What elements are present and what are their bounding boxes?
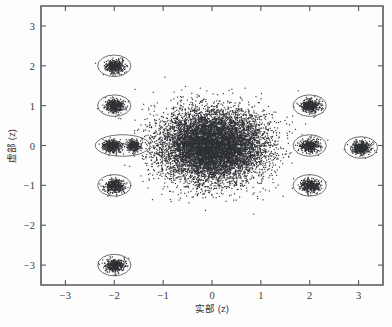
- data-point: [222, 120, 223, 121]
- data-point: [192, 140, 193, 141]
- data-point: [310, 137, 311, 138]
- data-point: [184, 122, 185, 123]
- data-point: [373, 142, 374, 143]
- data-point: [162, 153, 163, 154]
- data-point: [259, 148, 260, 149]
- data-point: [364, 138, 365, 139]
- data-point: [355, 154, 356, 155]
- data-point: [107, 272, 108, 273]
- data-point: [160, 129, 161, 130]
- data-point: [286, 123, 287, 124]
- data-point: [192, 188, 193, 189]
- data-point: [178, 137, 179, 138]
- data-point: [223, 154, 224, 155]
- data-point: [172, 160, 173, 161]
- data-point: [179, 179, 180, 180]
- y-tick-label: 2: [30, 61, 35, 72]
- data-point: [125, 106, 126, 107]
- data-point: [290, 152, 291, 153]
- data-point: [165, 124, 166, 125]
- data-point: [118, 68, 119, 69]
- data-point: [156, 141, 157, 142]
- data-point: [246, 159, 247, 160]
- data-point: [189, 108, 190, 109]
- data-point: [299, 145, 300, 146]
- data-point: [244, 163, 245, 164]
- data-point: [253, 158, 254, 159]
- data-point: [199, 151, 200, 152]
- data-point: [204, 144, 205, 145]
- data-point: [317, 109, 318, 110]
- data-point: [161, 155, 162, 156]
- data-point: [114, 143, 115, 144]
- data-point: [194, 169, 195, 170]
- data-point: [184, 149, 185, 150]
- data-point: [177, 142, 178, 143]
- data-point: [315, 105, 316, 106]
- data-point: [174, 165, 175, 166]
- data-point: [224, 130, 225, 131]
- data-point: [218, 152, 219, 153]
- data-point: [247, 170, 248, 171]
- data-point: [207, 176, 208, 177]
- data-point: [109, 189, 110, 190]
- data-point: [239, 153, 240, 154]
- data-point: [230, 142, 231, 143]
- data-point: [189, 172, 190, 173]
- data-point: [243, 155, 244, 156]
- data-point: [228, 152, 229, 153]
- data-point: [233, 150, 234, 151]
- data-point: [287, 135, 288, 136]
- data-point: [244, 158, 245, 159]
- data-point: [300, 183, 301, 184]
- data-point: [254, 142, 255, 143]
- data-point: [163, 149, 164, 150]
- data-point: [215, 166, 216, 167]
- data-point: [360, 153, 361, 154]
- data-point: [272, 145, 273, 146]
- data-point: [148, 108, 149, 109]
- data-point: [206, 142, 207, 143]
- data-point: [199, 109, 200, 110]
- data-point: [197, 145, 198, 146]
- data-point: [225, 113, 226, 114]
- data-point: [255, 96, 256, 97]
- data-point: [213, 103, 214, 104]
- data-point: [184, 170, 185, 171]
- data-point: [114, 188, 115, 189]
- data-point: [213, 140, 214, 141]
- data-point: [235, 151, 236, 152]
- data-point: [214, 160, 215, 161]
- data-point: [161, 165, 162, 166]
- data-point: [230, 176, 231, 177]
- data-point: [104, 146, 105, 147]
- data-point: [111, 61, 112, 62]
- data-point: [310, 149, 311, 150]
- data-point: [198, 184, 199, 185]
- data-point: [319, 189, 320, 190]
- data-point: [245, 111, 246, 112]
- data-point: [205, 156, 206, 157]
- data-point: [115, 73, 116, 74]
- data-point: [218, 154, 219, 155]
- data-point: [219, 101, 220, 102]
- data-point: [300, 146, 301, 147]
- data-point: [314, 187, 315, 188]
- data-point: [202, 194, 203, 195]
- data-point: [265, 141, 266, 142]
- data-point: [199, 149, 200, 150]
- data-point: [266, 114, 267, 115]
- data-point: [112, 180, 113, 181]
- data-point: [243, 131, 244, 132]
- data-point: [207, 190, 208, 191]
- data-point: [276, 159, 277, 160]
- data-point: [310, 192, 311, 193]
- data-point: [211, 169, 212, 170]
- data-point: [253, 147, 254, 148]
- data-point: [188, 154, 189, 155]
- data-point: [184, 176, 185, 177]
- x-tick-label: −3: [60, 290, 71, 301]
- data-point: [151, 140, 152, 141]
- data-point: [245, 117, 246, 118]
- data-point: [116, 101, 117, 102]
